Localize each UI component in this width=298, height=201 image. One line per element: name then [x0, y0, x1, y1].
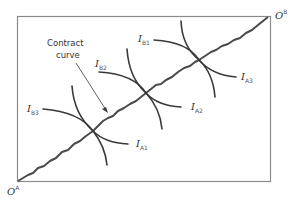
contract-curve-label-line1: Contract	[47, 38, 84, 48]
edgeworth-box-diagram: Contract curve OA OB IA1 IA2 IA3 IB1 IB2…	[0, 0, 298, 201]
label-ib1: IB1	[137, 33, 150, 46]
indifference-curve-b2	[127, 49, 162, 129]
label-ia2: IA2	[190, 101, 203, 114]
indifference-curve-b1	[181, 21, 215, 97]
label-ia1: IA1	[135, 138, 148, 151]
arrowhead-icon	[102, 107, 108, 113]
label-ib3: IB3	[26, 103, 39, 116]
label-ib2: IB2	[94, 58, 107, 71]
origin-b-label: OB	[275, 8, 287, 21]
label-ia3: IA3	[240, 71, 253, 84]
contract-curve-label-line2: curve	[56, 50, 80, 60]
origin-a-label: OA	[7, 184, 20, 197]
indifference-curve-a2	[99, 72, 181, 107]
